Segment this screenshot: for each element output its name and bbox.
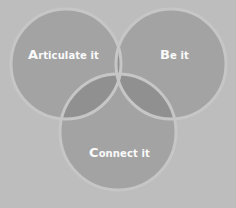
label-articulate: Articulate it (28, 47, 99, 62)
label-articulate-cap: A (28, 47, 38, 62)
label-articulate-rest: rticulate it (38, 50, 99, 61)
label-be: Be it (160, 47, 189, 62)
label-be-rest: e it (170, 50, 189, 61)
label-connect-rest: onnect it (99, 148, 150, 159)
label-be-cap: B (160, 47, 170, 62)
label-connect-cap: C (89, 145, 99, 160)
label-connect: Connect it (89, 145, 150, 160)
venn-diagram (0, 0, 236, 208)
